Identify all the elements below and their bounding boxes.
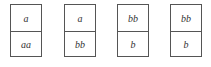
card-bottom-text: b xyxy=(118,31,148,57)
card-bottom-text: aa xyxy=(11,31,41,57)
domino-card-3: bb b xyxy=(117,4,149,57)
domino-card-1: a aa xyxy=(10,4,42,57)
card-top-text: a xyxy=(65,5,95,32)
domino-card-4: bb b xyxy=(170,4,202,57)
card-top-text: bb xyxy=(118,5,148,32)
card-top-text: bb xyxy=(171,5,201,32)
card-top-text: a xyxy=(11,5,41,32)
card-bottom-text: bb xyxy=(65,31,95,57)
card-bottom-text: b xyxy=(171,31,201,57)
domino-card-2: a bb xyxy=(64,4,96,57)
